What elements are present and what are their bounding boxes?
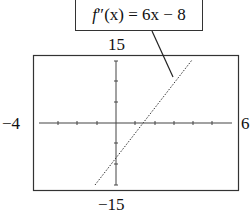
- plot-area: [0, 0, 251, 218]
- callout-leader-line: [152, 31, 173, 77]
